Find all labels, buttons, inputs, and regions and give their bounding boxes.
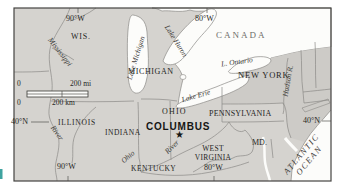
scan-artifact [0, 169, 3, 179]
label-lat-40n-left: 40°N [11, 118, 28, 126]
state-label-illinois: ILLINOIS [58, 119, 96, 127]
label-lat-40n-right: 40°N [303, 117, 320, 125]
state-label-maryland: MD. [252, 139, 267, 147]
scale-mi-label: 200 mi [70, 80, 91, 88]
state-label-indiana: INDIANA [105, 129, 141, 137]
lake-st-clair-shape [180, 75, 186, 80]
state-label-ohio: OHIO [162, 108, 187, 116]
country-label-canada: CANADA [216, 31, 267, 40]
reference-map-figure: CANADA WIS. MICHIGAN ILLINOIS INDIANA OH… [0, 0, 338, 194]
scale-km-zero: 0 [17, 99, 21, 107]
scale-mi-zero: 0 [17, 80, 21, 88]
state-label-new-york: NEW YORK [238, 71, 290, 80]
scale-km-label: 200 km [52, 99, 75, 107]
state-label-wisconsin: WIS. [71, 33, 91, 41]
label-lon-90w-bottom: 90°W [57, 163, 76, 171]
label-lon-90w-top: 90°W [66, 15, 85, 23]
west-virginia-line2: VIRGINIA [195, 154, 232, 163]
state-label-kentucky: KENTUCKY [131, 165, 176, 173]
state-label-pennsylvania: PENNSYLVANIA [209, 110, 271, 118]
label-lon-80w-bottom: 80°W [204, 164, 223, 172]
label-lon-80w-top: 80°W [195, 15, 214, 23]
state-label-west-virginia: WEST VIRGINIA [195, 145, 232, 162]
scale-bar [27, 91, 88, 97]
columbus-star-icon: ★ [175, 130, 184, 140]
